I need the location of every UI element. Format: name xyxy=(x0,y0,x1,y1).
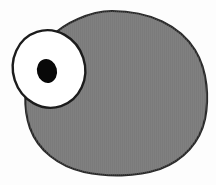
illustration-canvas: Cartoon blob creature with one large eye xyxy=(0,0,216,185)
cartoon-creature-illustration: Cartoon blob creature with one large eye xyxy=(0,0,216,185)
